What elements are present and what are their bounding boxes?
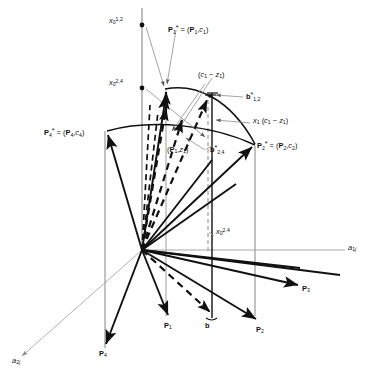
label-x1-c1-minus-z1: x1 (c1 − z1) bbox=[253, 117, 288, 125]
label-p2: P2 bbox=[256, 326, 264, 334]
leader-x1c1z1 bbox=[216, 120, 250, 123]
label-b-star-24: b*2,4 bbox=[210, 144, 224, 155]
point-b12 bbox=[208, 94, 212, 98]
ray-p4 bbox=[106, 250, 142, 344]
label-c1-minus-z1: (c1 − z1) bbox=[198, 71, 225, 79]
leader-x0-12-to-p1star bbox=[146, 27, 164, 86]
label-x0-24-mid: x02,4 bbox=[216, 228, 230, 237]
figure-canvas: x01,2 P1* = (P1,c1) x02,4 (c1 − z1) b*1,… bbox=[0, 0, 377, 379]
label-p3: P3 bbox=[302, 285, 310, 293]
lower-arc bbox=[107, 125, 255, 145]
solid-rays bbox=[106, 95, 340, 344]
label-p4-star: P4* = (P4,c4) bbox=[44, 127, 84, 138]
inner-dashed-rays bbox=[142, 105, 158, 250]
diagram-svg bbox=[0, 0, 377, 379]
label-x0-12: x01,2 bbox=[109, 17, 123, 26]
point-x0-12 bbox=[140, 23, 145, 28]
leader-b12 bbox=[216, 95, 243, 97]
label-a1j: a1j bbox=[348, 244, 356, 252]
label-p1: P1 bbox=[164, 322, 172, 330]
label-a2j: a2j bbox=[12, 357, 20, 365]
point-x0-24 bbox=[140, 86, 145, 91]
label-p2-star: P2* = (P2,c2) bbox=[257, 140, 297, 151]
ray-b-dashed bbox=[142, 250, 210, 312]
ray-inner-a bbox=[142, 112, 158, 250]
ray-p4star bbox=[108, 135, 142, 250]
axis-lines bbox=[22, 8, 345, 356]
ray-upper-right-long bbox=[142, 184, 236, 250]
label-b-star-12: b*1,2 bbox=[246, 91, 260, 102]
label-p1-z1: (P1,z1) bbox=[167, 146, 188, 154]
label-x0-24-top: x02,4 bbox=[109, 79, 123, 88]
ray-p1 bbox=[142, 250, 168, 315]
label-p1-star: P1* = (P1,c1) bbox=[168, 24, 208, 35]
leader-p1star-label bbox=[167, 30, 176, 84]
label-b: b bbox=[205, 322, 210, 329]
diagonal-axis-a2j bbox=[22, 250, 142, 356]
leader-p1z1 bbox=[186, 138, 205, 150]
label-p4: P4 bbox=[99, 350, 107, 358]
ray-p2star-upper bbox=[142, 160, 212, 250]
